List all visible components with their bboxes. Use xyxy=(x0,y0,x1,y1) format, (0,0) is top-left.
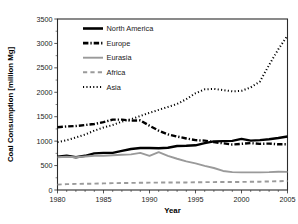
x-axis-tick-labels: 198019851990199520002005 xyxy=(50,195,296,204)
series-line-north-america xyxy=(58,137,288,158)
y-tick-label-3500: 3500 xyxy=(37,15,53,24)
x-tick-label-1980: 1980 xyxy=(50,195,66,204)
y-tick-label-1000: 1000 xyxy=(37,137,53,146)
y-tick-label-1500: 1500 xyxy=(37,112,53,121)
x-tick-label-2005: 2005 xyxy=(280,195,296,204)
chart-legend: North AmericaEuropeEurasiaAfricaAsia xyxy=(83,24,154,91)
series-line-asia xyxy=(58,36,288,143)
legend-label-europe: Europe xyxy=(107,39,131,48)
series-line-africa xyxy=(58,181,288,185)
legend-label-eurasia: Eurasia xyxy=(107,53,133,62)
legend-label-north-america: North America xyxy=(107,24,155,33)
y-tick-label-0: 0 xyxy=(49,186,53,195)
chart-canvas: 0500100015002000250030003500 19801985199… xyxy=(0,0,298,224)
y-tick-label-2000: 2000 xyxy=(37,88,53,97)
y-axis-title: Coal Consumption [million Mg] xyxy=(6,46,15,162)
x-tick-label-2000: 2000 xyxy=(234,195,250,204)
y-tick-label-500: 500 xyxy=(41,161,53,170)
x-tick-label-1990: 1990 xyxy=(142,195,158,204)
y-tick-label-2500: 2500 xyxy=(37,63,53,72)
series-line-eurasia xyxy=(58,152,288,172)
plot-frame-group xyxy=(58,19,288,190)
plot-area-frame xyxy=(58,19,288,190)
x-tick-label-1995: 1995 xyxy=(188,195,204,204)
y-tick-label-3000: 3000 xyxy=(37,39,53,48)
x-axis-title: Year xyxy=(164,206,180,215)
legend-label-asia: Asia xyxy=(107,83,122,92)
x-tick-label-1985: 1985 xyxy=(96,195,112,204)
y-axis-tick-labels: 0500100015002000250030003500 xyxy=(37,15,53,195)
coal-consumption-line-chart: 0500100015002000250030003500 19801985199… xyxy=(0,0,298,224)
legend-label-africa: Africa xyxy=(107,68,127,77)
